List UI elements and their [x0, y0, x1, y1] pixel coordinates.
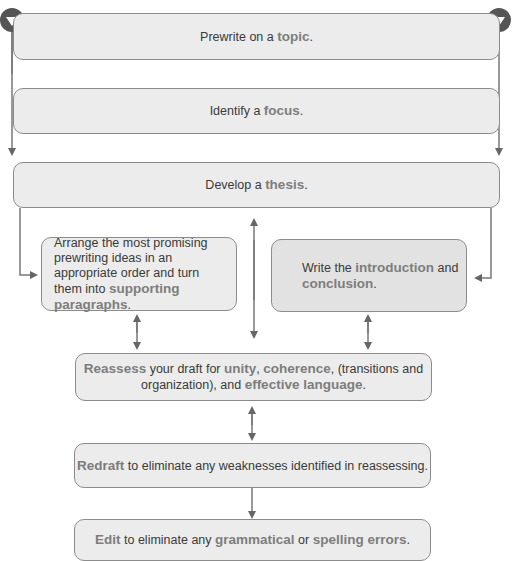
key-term: Reassess — [84, 361, 146, 376]
step-text: Reassess your draft for unity, coherence… — [76, 361, 431, 393]
step-edit: Edit to eliminate any grammatical or spe… — [74, 519, 431, 561]
step-text-part: . — [304, 178, 307, 192]
key-term: grammatical — [215, 532, 295, 547]
step-thesis: Develop a thesis. — [13, 162, 500, 208]
step-text-part: Identify a — [210, 104, 264, 118]
key-term: thesis — [265, 177, 304, 192]
step-introduction-conclusion: Write the introduction and conclusion. — [271, 239, 467, 312]
step-text-part: . — [362, 378, 365, 392]
key-term: unity — [224, 361, 256, 376]
step-text-part: . — [406, 533, 409, 547]
step-text: Arrange the most promising prewriting id… — [54, 236, 228, 313]
step-text-part: to eliminate any weaknesses identified i… — [124, 459, 428, 473]
step-supporting-paragraphs: Arrange the most promising prewriting id… — [41, 237, 237, 311]
step-text: Develop a thesis. — [205, 177, 307, 193]
step-text-part: or — [295, 533, 313, 547]
step-text: Write the introduction and conclusion. — [302, 260, 466, 292]
step-text-part: Write the — [302, 261, 355, 275]
key-term: Redraft — [77, 458, 124, 473]
step-text-part: and — [434, 261, 458, 275]
step-text-part: . — [309, 30, 312, 44]
key-term: Edit — [95, 532, 121, 547]
key-term: spelling errors — [313, 532, 407, 547]
step-text: Identify a focus. — [210, 103, 304, 119]
key-term: topic — [277, 29, 309, 44]
step-redraft: Redraft to eliminate any weaknesses iden… — [74, 443, 431, 488]
step-text-part: Develop a — [205, 178, 265, 192]
step-text: Redraft to eliminate any weaknesses iden… — [77, 458, 428, 474]
key-term: effective language — [245, 377, 363, 392]
step-prewrite: Prewrite on a topic. — [13, 13, 500, 60]
key-term: introduction — [355, 260, 434, 275]
step-text: Prewrite on a topic. — [200, 29, 313, 45]
step-text-part: . — [373, 277, 376, 291]
step-text-part: to eliminate any — [121, 533, 216, 547]
key-term: coherence — [263, 361, 331, 376]
step-reassess: Reassess your draft for unity, coherence… — [75, 353, 432, 401]
step-focus: Identify a focus. — [13, 88, 500, 134]
step-text-part: Prewrite on a — [200, 30, 277, 44]
step-text-part: your draft for — [146, 362, 224, 376]
key-term: conclusion — [302, 276, 373, 291]
key-term: focus — [264, 103, 300, 118]
step-text-part: . — [128, 298, 131, 312]
step-text-part: . — [300, 104, 303, 118]
step-text: Edit to eliminate any grammatical or spe… — [95, 532, 410, 548]
